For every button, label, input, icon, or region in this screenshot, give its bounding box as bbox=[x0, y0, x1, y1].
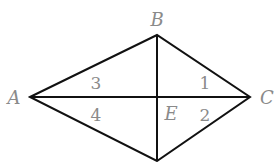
vertex-label-a: A bbox=[6, 87, 21, 108]
angle-label-2: 2 bbox=[200, 105, 211, 125]
vertex-label-e: E bbox=[163, 103, 177, 124]
vertex-label-b: B bbox=[149, 9, 163, 30]
kite-diagram: A B C E 3 4 1 2 bbox=[0, 0, 277, 162]
angle-label-1: 1 bbox=[200, 73, 211, 93]
angle-label-3: 3 bbox=[91, 73, 102, 93]
vertex-label-c: C bbox=[260, 87, 274, 108]
kite-svg: A B C E 3 4 1 2 bbox=[0, 0, 277, 162]
angle-label-4: 4 bbox=[91, 105, 102, 125]
